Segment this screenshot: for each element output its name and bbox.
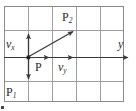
label-vector-vy: vy	[58, 61, 67, 73]
label-point-p1: P1	[6, 86, 16, 98]
label-p-base: P	[35, 60, 42, 74]
bottom-left-corner-mark	[1, 106, 4, 109]
diagram-canvas: P2 P1 P vx vy y	[0, 0, 136, 111]
label-y-axis-text: y	[118, 37, 123, 51]
label-p1-base: P	[6, 85, 13, 99]
origin-point-dot	[27, 56, 31, 60]
label-point-p2: P2	[62, 11, 72, 23]
label-y-axis: y	[118, 38, 123, 50]
label-p2-subscript: 2	[69, 16, 73, 25]
label-p2-base: P	[62, 10, 69, 24]
label-vector-vx: vx	[6, 38, 15, 50]
label-vx-subscript: x	[11, 43, 14, 52]
label-vy-subscript: y	[63, 66, 66, 75]
label-point-p: P	[35, 61, 42, 73]
label-p1-subscript: 1	[13, 91, 17, 100]
